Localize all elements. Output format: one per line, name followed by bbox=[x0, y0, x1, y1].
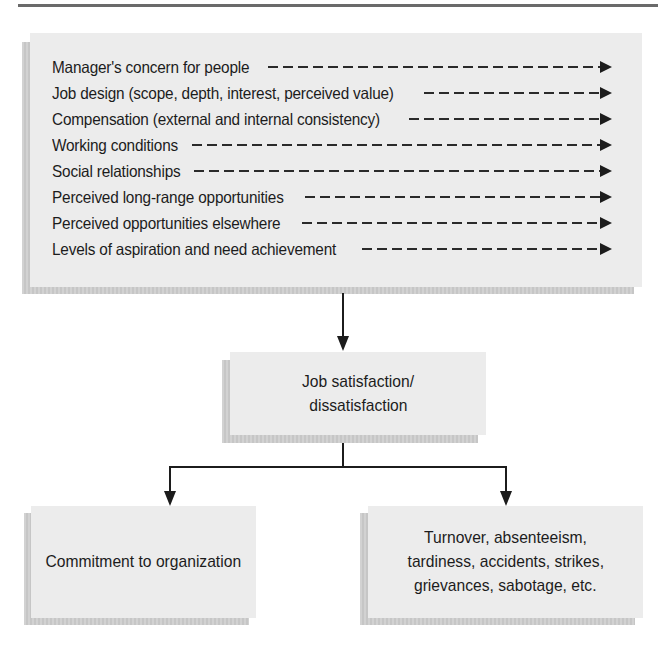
factor-row: Social relationships bbox=[52, 159, 612, 183]
arrowhead-down-icon bbox=[337, 336, 349, 351]
dashed-line bbox=[268, 66, 602, 68]
connector-to-outcomes bbox=[505, 466, 507, 492]
factors-box: Manager's concern for people Job design … bbox=[30, 33, 642, 287]
satisfaction-line-1: Job satisfaction/ bbox=[302, 370, 414, 394]
factor-row: Manager's concern for people bbox=[52, 55, 612, 79]
dashed-line bbox=[305, 196, 602, 198]
dashed-arrow bbox=[254, 55, 612, 79]
outcomes-label: Turnover, absenteeism, tardiness, accide… bbox=[399, 526, 613, 598]
dashed-line bbox=[302, 222, 602, 224]
arrowhead-right-icon bbox=[600, 243, 612, 255]
factor-row: Compensation (external and internal cons… bbox=[52, 107, 612, 131]
top-rule bbox=[18, 4, 658, 7]
factor-label: Working conditions bbox=[52, 136, 178, 155]
dashed-line bbox=[362, 248, 602, 250]
satisfaction-label: Job satisfaction/ dissatisfaction bbox=[297, 370, 419, 418]
arrowhead-right-icon bbox=[600, 139, 612, 151]
factor-label: Levels of aspiration and need achievemen… bbox=[52, 240, 336, 259]
arrowhead-right-icon bbox=[600, 165, 612, 177]
factor-row: Levels of aspiration and need achievemen… bbox=[52, 237, 612, 261]
commitment-label: Commitment to organization bbox=[46, 550, 242, 574]
dashed-arrow bbox=[410, 81, 613, 105]
dashed-arrow bbox=[291, 185, 612, 209]
dashed-arrow bbox=[180, 159, 612, 183]
commitment-box: Commitment to organization bbox=[31, 506, 256, 618]
dashed-line bbox=[192, 144, 603, 146]
arrowhead-right-icon bbox=[600, 113, 612, 125]
outcomes-line-3: grievances, sabotage, etc. bbox=[414, 574, 597, 598]
factor-label: Social relationships bbox=[52, 162, 180, 181]
outcomes-line-2: tardiness, accidents, strikes, bbox=[407, 550, 603, 574]
factor-row: Perceived opportunities elsewhere bbox=[52, 211, 612, 235]
factor-label: Job design (scope, depth, interest, perc… bbox=[52, 84, 394, 103]
dashed-arrow bbox=[395, 107, 612, 131]
factor-label: Perceived long-range opportunities bbox=[52, 188, 284, 207]
connector-factors-to-satisfaction bbox=[342, 293, 344, 338]
dashed-line bbox=[409, 118, 602, 120]
factor-row: Working conditions bbox=[52, 133, 612, 157]
satisfaction-line-2: dissatisfaction bbox=[309, 394, 407, 418]
dashed-line bbox=[194, 170, 602, 172]
dashed-arrow bbox=[288, 211, 612, 235]
factor-label: Compensation (external and internal cons… bbox=[52, 110, 380, 129]
arrowhead-down-icon bbox=[164, 491, 176, 506]
connector-to-commitment bbox=[169, 466, 171, 492]
dashed-arrow bbox=[348, 237, 612, 261]
dashed-arrow bbox=[178, 133, 613, 157]
factor-row: Job design (scope, depth, interest, perc… bbox=[52, 81, 612, 105]
outcomes-line-1: Turnover, absenteeism, bbox=[424, 526, 587, 550]
arrowhead-right-icon bbox=[600, 217, 612, 229]
connector-satisfaction-stem bbox=[342, 443, 344, 468]
arrowhead-down-icon bbox=[500, 491, 512, 506]
arrowhead-right-icon bbox=[600, 191, 612, 203]
arrowhead-right-icon bbox=[600, 87, 612, 99]
outcomes-box: Turnover, absenteeism, tardiness, accide… bbox=[368, 506, 643, 618]
arrowhead-right-icon bbox=[600, 61, 612, 73]
satisfaction-box: Job satisfaction/ dissatisfaction bbox=[230, 352, 486, 435]
factor-label: Perceived opportunities elsewhere bbox=[52, 214, 280, 233]
factor-label: Manager's concern for people bbox=[52, 58, 249, 77]
dashed-line bbox=[424, 92, 603, 94]
factor-row: Perceived long-range opportunities bbox=[52, 185, 612, 209]
connector-branch-horizontal bbox=[169, 466, 507, 468]
